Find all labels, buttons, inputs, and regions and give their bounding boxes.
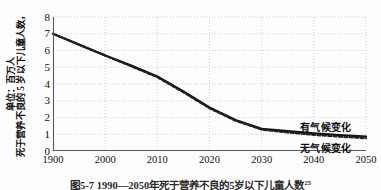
- x-tick-label: 2030: [251, 155, 272, 166]
- x-axis-tick-labels: 1900200020102020203020402050: [53, 155, 366, 169]
- figure-caption: 图5-7 1990—2050年死于营养不良的5岁以下儿童人数25: [0, 177, 381, 190]
- y-tick-label: 2: [36, 112, 50, 123]
- y-tick-label: 3: [36, 95, 50, 106]
- figure-caption-note: 25: [304, 179, 311, 186]
- series-label-with-climate-change: 有气候变化: [300, 119, 352, 134]
- y-tick-label: 5: [36, 62, 50, 73]
- x-tick-label: 2010: [147, 155, 168, 166]
- y-axis-title-line-1: 死于营养不良的 5 岁以下儿童人数，: [17, 11, 27, 157]
- y-axis-tick-labels: 012345678: [33, 17, 50, 151]
- y-tick-label: 4: [36, 79, 50, 90]
- y-tick-label: 8: [36, 12, 50, 23]
- y-axis-title-rotated: 死于营养不良的 5 岁以下儿童人数， 单位：百万人: [7, 11, 27, 157]
- y-tick-label: 6: [36, 45, 50, 56]
- y-tick-label: 7: [36, 28, 50, 39]
- x-tick-label: 2020: [199, 155, 220, 166]
- y-tick-label: 1: [36, 129, 50, 140]
- series-label-no-climate-change: 无气候变化: [300, 140, 352, 155]
- x-tick-label: 2050: [356, 155, 377, 166]
- x-tick-label: 1900: [43, 155, 64, 166]
- x-tick-label: 2040: [303, 155, 324, 166]
- y-axis-title: 死于营养不良的 5 岁以下儿童人数， 单位：百万人: [0, 0, 34, 168]
- x-tick-label: 2000: [95, 155, 116, 166]
- chart-figure: 死于营养不良的 5 岁以下儿童人数， 单位：百万人 012345678 1900…: [0, 0, 381, 190]
- figure-caption-text: 图5-7 1990—2050年死于营养不良的5岁以下儿童人数: [70, 180, 304, 190]
